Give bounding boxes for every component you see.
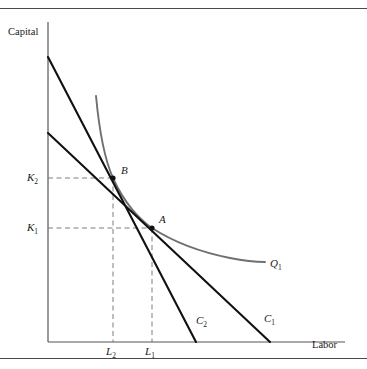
y-axis-label: Capital [8,27,38,38]
curve-label-c1: C1 [264,313,275,327]
tick-label-k2-sub: 2 [34,177,38,186]
chart-canvas [0,0,367,369]
tick-label-k2: K2 [27,172,38,186]
tick-label-l1-sub: 1 [151,351,155,360]
tick-label-l1: L1 [145,346,155,360]
frame-rule-bottom [0,358,367,359]
curve-label-q1-base: Q [270,257,278,269]
point-marker-b [110,175,115,180]
isoquant-isocost-figure: Capital Labor K2 K1 L2 L1 B A Q1 C2 C1 [0,0,367,369]
tick-label-k1-sub: 1 [34,227,38,236]
curve-label-c2: C2 [196,315,207,329]
tick-label-l2: L2 [106,346,116,360]
isocost-line-c2 [48,57,196,342]
curve-label-q1-sub: 1 [278,263,282,272]
curve-label-q1: Q1 [270,258,282,272]
tick-label-k1: K1 [27,222,38,236]
isoquant-curve-q1 [96,96,265,262]
point-marker-a [149,225,154,230]
x-axis-label: Labor [312,340,337,351]
frame-rule-top [0,8,367,9]
isocost-line-c1 [48,133,270,342]
point-label-a: A [159,214,166,225]
curve-label-c1-sub: 1 [271,318,275,327]
curve-label-c2-sub: 2 [203,320,207,329]
point-label-b: B [121,165,128,176]
tick-label-l2-sub: 2 [112,351,116,360]
